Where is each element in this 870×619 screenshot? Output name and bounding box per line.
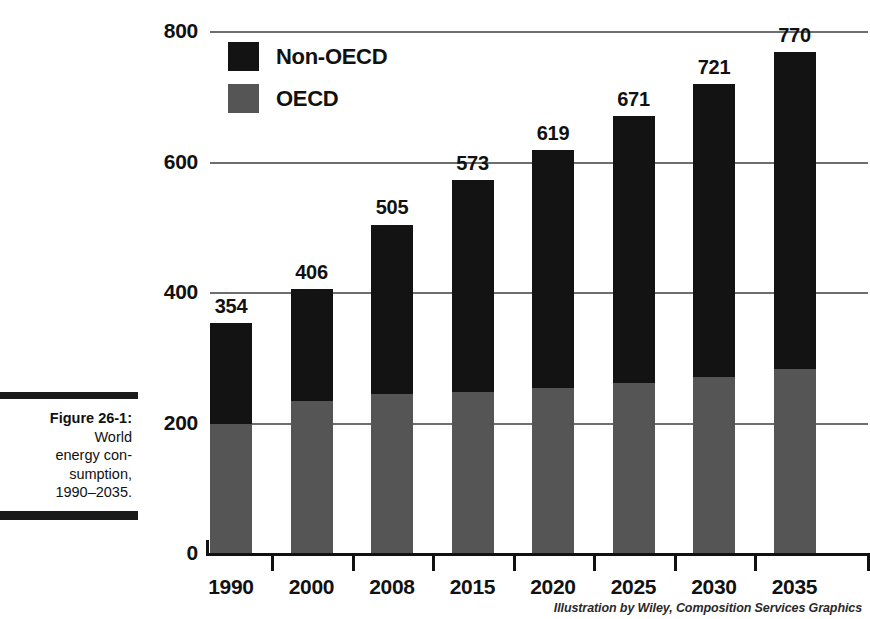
- y-axis-tick-label: 200: [150, 411, 198, 435]
- caption-line-2: energy con-: [0, 446, 132, 465]
- x-axis-tick: [513, 556, 516, 571]
- legend-item-oecd: OECD: [228, 84, 387, 113]
- bar-segment-oecd: [371, 394, 413, 554]
- caption-line-1: World: [0, 428, 132, 447]
- bar-value-label: 573: [438, 152, 508, 175]
- bar-value-label: 619: [518, 122, 588, 145]
- bar-segment-non-oecd: [532, 150, 574, 388]
- bar-segment-oecd: [452, 392, 494, 554]
- y-axis-tick-label: 0: [150, 541, 198, 565]
- x-axis-category-label: 2015: [438, 575, 508, 599]
- bar-2000: [291, 289, 333, 554]
- figure-container: Figure 26-1: World energy con- sumption,…: [0, 0, 870, 619]
- x-axis-line: [206, 553, 870, 556]
- bar-value-label: 505: [357, 196, 427, 219]
- caption-rule-top: [0, 392, 138, 399]
- legend-swatch-icon: [228, 42, 259, 71]
- y-axis-tick-label: 400: [150, 280, 198, 304]
- bar-2008: [371, 225, 413, 555]
- bar-segment-oecd: [693, 377, 735, 554]
- legend-label: Non-OECD: [276, 44, 387, 70]
- bar-segment-oecd: [291, 401, 333, 554]
- bar-segment-non-oecd: [774, 52, 816, 370]
- x-axis-category-label: 1990: [196, 575, 266, 599]
- x-axis-category-label: 2000: [277, 575, 347, 599]
- bar-2035: [774, 52, 816, 554]
- bar-2030: [693, 84, 735, 554]
- chart-plot-area: 0200400600800 354406505573619671721770 1…: [150, 0, 870, 619]
- x-axis-tick: [432, 556, 435, 571]
- bar-value-label: 671: [599, 88, 669, 111]
- legend-label: OECD: [276, 86, 338, 112]
- bar-segment-oecd: [774, 369, 816, 554]
- bar-segment-oecd: [210, 424, 252, 555]
- y-axis-stub: [206, 540, 209, 556]
- caption-line-4: 1990–2035.: [0, 483, 132, 502]
- attribution-text: Illustration by Wiley, Composition Servi…: [554, 601, 862, 615]
- y-axis-tick-label: 800: [150, 19, 198, 43]
- x-axis-category-label: 2025: [599, 575, 669, 599]
- bar-2015: [452, 180, 494, 554]
- bar-value-label: 354: [196, 295, 266, 318]
- x-axis-category-label: 2020: [518, 575, 588, 599]
- bar-2025: [613, 116, 655, 554]
- caption-figure-number: Figure 26-1:: [0, 409, 132, 428]
- bar-segment-non-oecd: [693, 84, 735, 377]
- bar-value-label: 721: [679, 56, 749, 79]
- y-axis-tick-label: 600: [150, 150, 198, 174]
- bar-1990: [210, 323, 252, 554]
- x-axis-category-label: 2030: [679, 575, 749, 599]
- figure-caption-block: Figure 26-1: World energy con- sumption,…: [0, 392, 138, 520]
- legend-item-non-oecd: Non-OECD: [228, 42, 387, 71]
- x-axis-category-label: 2035: [760, 575, 830, 599]
- x-axis-tick: [271, 556, 274, 571]
- chart-legend: Non-OECDOECD: [228, 42, 387, 126]
- bar-value-label: 406: [277, 261, 347, 284]
- bar-segment-non-oecd: [452, 180, 494, 392]
- x-axis-tick: [593, 556, 596, 571]
- chart-inner: 0200400600800 354406505573619671721770 1…: [150, 0, 870, 619]
- caption-text: Figure 26-1: World energy con- sumption,…: [0, 409, 138, 502]
- bar-value-label: 770: [760, 24, 830, 47]
- x-axis-category-label: 2008: [357, 575, 427, 599]
- x-axis-tick: [674, 556, 677, 571]
- bar-segment-non-oecd: [371, 225, 413, 395]
- bar-segment-non-oecd: [210, 323, 252, 423]
- x-axis-tick: [352, 556, 355, 571]
- caption-rule-bottom: [0, 511, 138, 520]
- bar-2020: [532, 150, 574, 554]
- caption-line-3: sumption,: [0, 465, 132, 484]
- legend-swatch-icon: [228, 84, 259, 113]
- bar-segment-non-oecd: [613, 116, 655, 383]
- bar-segment-oecd: [613, 383, 655, 554]
- x-axis-tick: [754, 556, 757, 571]
- bar-segment-non-oecd: [291, 289, 333, 401]
- bar-segment-oecd: [532, 388, 574, 554]
